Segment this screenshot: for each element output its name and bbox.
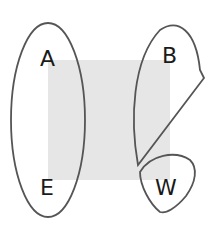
label-e: E	[40, 175, 54, 200]
diagram-svg: A E B W	[0, 0, 214, 231]
label-a: A	[40, 46, 55, 71]
label-w: W	[155, 175, 177, 200]
diagram-canvas: A E B W	[0, 0, 214, 231]
gray-square	[48, 60, 170, 180]
label-b: B	[162, 43, 177, 68]
